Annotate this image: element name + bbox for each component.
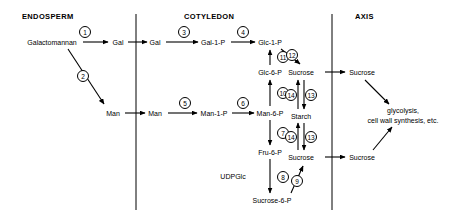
- node-sucrose-6-p: Sucrose-6-P: [252, 196, 293, 205]
- node-sucrose-cotyledon-bottom: Sucrose: [287, 153, 315, 162]
- reaction-number-2: 2: [77, 70, 89, 82]
- node-glycolysis-sink: glycolysis, cell wall synthesis, etc.: [367, 106, 440, 125]
- node-sucrose-axis-bottom: Sucrose: [348, 153, 376, 162]
- reaction-number-6: 6: [237, 97, 249, 109]
- node-glc-1-p: Glc-1-P: [257, 38, 283, 47]
- reaction-number-14-starch-lower: 14: [285, 131, 297, 143]
- pathway-diagram: ENDOSPERM COTYLEDON AXIS Galactomannan G…: [0, 0, 451, 221]
- node-starch: Starch: [290, 112, 312, 121]
- reaction-number-5: 5: [179, 97, 191, 109]
- compartment-title-cotyledon: COTYLEDON: [184, 12, 234, 21]
- compartment-title-axis: AXIS: [355, 12, 374, 21]
- sink-line-2: cell wall synthesis, etc.: [368, 116, 439, 123]
- node-galactomannan: Galactomannan: [26, 38, 77, 47]
- sink-line-1: glycolysis,: [387, 107, 419, 114]
- reaction-number-13-starch-lower: 13: [305, 131, 317, 143]
- arrow-sucrose-axis-top-to-sink: [365, 80, 389, 104]
- reaction-number-9: 9: [291, 175, 303, 187]
- node-sucrose-axis-top: Sucrose: [348, 68, 376, 77]
- node-fru-6-p: Fru-6-P: [257, 148, 283, 157]
- reaction-arrows: [68, 42, 392, 193]
- reaction-number-1: 1: [79, 26, 91, 38]
- arrow-sucrose-axis-bottom-to-sink: [373, 127, 392, 150]
- node-sucrose-cotyledon-top: Sucrose: [287, 68, 315, 77]
- compartment-title-endosperm: ENDOSPERM: [22, 12, 74, 21]
- node-man-6-p: Man-6-P: [256, 109, 285, 118]
- node-gal-endosperm: Gal: [112, 38, 125, 47]
- reaction-number-3: 3: [178, 26, 190, 38]
- reaction-number-13-starch-upper: 13: [305, 89, 317, 101]
- node-gal-cotyledon: Gal: [149, 38, 162, 47]
- node-udpglc: UDPGlc: [219, 172, 246, 181]
- node-man-1-p: Man-1-P: [200, 109, 229, 118]
- node-gal-1-p: Gal-1-P: [200, 38, 226, 47]
- reaction-number-14-starch-upper: 14: [285, 89, 297, 101]
- node-man-endosperm: Man: [105, 109, 121, 118]
- reaction-number-12: 12: [286, 49, 298, 61]
- node-man-cotyledon: Man: [147, 109, 163, 118]
- reaction-number-4: 4: [237, 26, 249, 38]
- node-glc-6-p: Glc-6-P: [257, 68, 283, 77]
- reaction-number-8: 8: [277, 171, 289, 183]
